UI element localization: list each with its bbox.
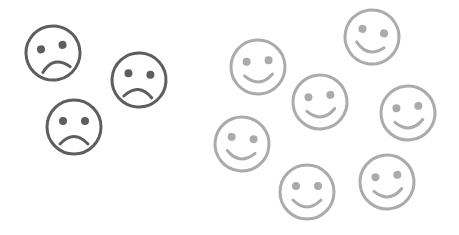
left-eye — [36, 45, 45, 54]
happy-face-icon — [357, 152, 416, 211]
left-eye — [392, 104, 401, 113]
face-outline — [290, 72, 349, 131]
face-outline — [47, 100, 101, 154]
left-eye — [358, 24, 367, 33]
left-eye — [304, 93, 313, 102]
smile-mouth — [307, 108, 336, 118]
smile-mouth — [293, 200, 321, 207]
sad-face-icon — [110, 51, 168, 109]
left-eye — [227, 132, 236, 141]
frown-mouth — [41, 59, 70, 72]
face-outline — [229, 38, 287, 96]
frown-mouth — [60, 137, 88, 145]
happy-face-icon — [212, 114, 271, 173]
face-outline — [340, 5, 404, 69]
right-eye — [249, 135, 258, 144]
face-outline — [21, 21, 85, 85]
smile-mouth — [227, 150, 256, 160]
face-outline — [280, 165, 334, 219]
left-eye — [59, 117, 67, 125]
right-eye — [379, 29, 388, 38]
sad-face-icon — [47, 100, 101, 154]
frown-mouth — [124, 89, 152, 98]
happy-face-icon — [280, 165, 334, 219]
face-outline — [357, 152, 416, 211]
smile-mouth — [395, 119, 424, 129]
happy-face-icon — [340, 5, 404, 69]
right-eye — [314, 182, 322, 190]
left-eye — [371, 173, 380, 182]
right-eye — [393, 170, 402, 179]
left-eye — [242, 58, 251, 67]
right-eye — [58, 40, 67, 49]
right-eye — [326, 90, 335, 99]
smile-mouth — [374, 188, 403, 198]
smile-mouth — [355, 42, 384, 55]
left-eye — [292, 182, 300, 190]
right-eye — [81, 117, 89, 125]
emoji-scene — [0, 0, 459, 235]
smile-mouth — [245, 74, 273, 83]
right-eye — [264, 56, 273, 65]
face-outline — [110, 51, 168, 109]
happy-face-icon — [378, 83, 437, 142]
left-eye — [124, 69, 133, 78]
sad-face-icon — [21, 21, 85, 85]
right-eye — [146, 71, 155, 80]
happy-face-icon — [290, 72, 349, 131]
happy-face-icon — [229, 38, 287, 96]
face-outline — [378, 83, 437, 142]
right-eye — [414, 101, 423, 110]
face-outline — [212, 114, 271, 173]
